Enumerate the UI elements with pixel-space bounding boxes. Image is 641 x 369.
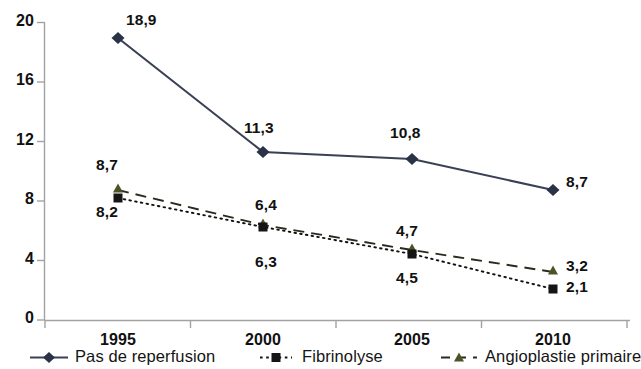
data-label-pas-de-reperfusion-2010: 8,7 [566, 173, 588, 191]
legend-label: Fibrinolyse [302, 347, 383, 366]
data-label-pas-de-reperfusion-2000: 11,3 [244, 119, 274, 137]
legend-key-square-dotted-icon [255, 348, 297, 366]
series-3-marker-2010 [548, 266, 558, 275]
y-axis-tick-label: 12 [0, 131, 34, 149]
data-label-angioplastie-primaire-2005: 4,7 [396, 222, 418, 240]
data-label-angioplastie-primaire-1995: 8,7 [96, 156, 118, 174]
legend-item-fibrinolyse[interactable]: Fibrinolyse [255, 344, 383, 369]
series-2-marker-1995 [114, 194, 123, 203]
legend-label: Angioplastie primaire [485, 347, 641, 366]
data-label-angioplastie-primaire-2000: 6,4 [255, 196, 277, 214]
legend-item-pas-de-reperfusion[interactable]: Pas de reperfusion [28, 344, 215, 369]
axis-lines [45, 22, 631, 321]
y-axis-tick-label: 20 [0, 12, 34, 30]
y-axis-tick-label: 4 [0, 250, 34, 268]
legend-key-diamond-solid-icon [28, 348, 70, 366]
data-label-fibrinolyse-2005: 4,5 [396, 269, 418, 287]
data-label-fibrinolyse-2000: 6,3 [255, 253, 277, 271]
series-angioplastie-primaire [113, 184, 558, 275]
series-3-marker-1995 [113, 184, 123, 193]
series-pas-de-reperfusion [112, 32, 560, 196]
y-axis-tick-label: 0 [0, 309, 34, 327]
series-3-line [118, 190, 553, 272]
series-2-marker-2010 [549, 285, 558, 294]
data-label-fibrinolyse-1995: 8,2 [96, 203, 118, 221]
chart-legend: Pas de reperfusion Fibrinolyse Angioplas… [0, 344, 630, 369]
data-label-angioplastie-primaire-2010: 3,2 [566, 257, 588, 275]
data-label-pas-de-reperfusion-1995: 18,9 [126, 11, 157, 29]
data-label-pas-de-reperfusion-2005: 10,8 [390, 124, 421, 142]
y-axis-tick-label: 16 [0, 71, 34, 89]
series-2-line [118, 198, 553, 289]
series-2-marker-2005 [408, 250, 417, 259]
data-label-fibrinolyse-2010: 2,1 [566, 278, 588, 296]
legend-item-angioplastie-primaire[interactable]: Angioplastie primaire [438, 344, 641, 369]
series-fibrinolyse [114, 194, 558, 294]
series-1-marker-2010 [547, 184, 560, 196]
series-1-line [118, 38, 553, 190]
series-1-marker-2005 [406, 153, 419, 165]
series-2-marker-2000 [259, 223, 268, 232]
legend-label: Pas de reperfusion [75, 347, 215, 366]
legend-key-triangle-dashed-icon [438, 348, 480, 366]
y-axis-tick-label: 8 [0, 190, 34, 208]
x-axis-ticks [45, 320, 627, 328]
y-axis-ticks [37, 23, 45, 321]
